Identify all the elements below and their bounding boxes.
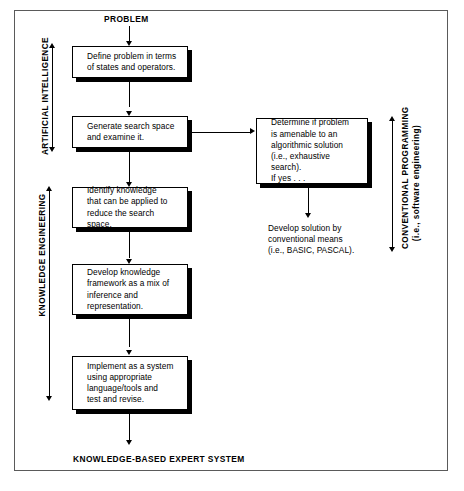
diagram-bottom-title: KNOWLEDGE-BASED EXPERT SYSTEM [73, 454, 245, 464]
span-label-knowledge-engineering: KNOWLEDGE ENGINEERING [38, 150, 47, 360]
process-box-determine-algorithmic[interactable]: Determine if problem is amenable to an a… [256, 118, 368, 184]
process-box-implement-system-label: Implement as a system using appropriate … [73, 361, 179, 406]
connector-box2-to-box3 [129, 152, 130, 182]
arrow-box4-to-box5 [126, 350, 132, 355]
process-box-develop-framework[interactable]: Develop knowledge framework as a mix of … [72, 264, 188, 315]
connector-determine-to-develop-solution [308, 188, 309, 213]
ai-span-line [52, 47, 53, 148]
connector-box4-to-box5 [129, 319, 130, 347]
diagram-canvas: PROBLEM Define problem in terms of state… [0, 0, 464, 491]
process-box-generate-search-space-label: Generate search space and examine it. [73, 121, 180, 143]
connector-problem-to-box1 [129, 26, 130, 42]
span-label-conventional-programming-line2: (i.e., software engineering) [412, 117, 422, 249]
process-box-define-problem-label: Define problem in terms of states and op… [73, 51, 182, 73]
caption-develop-conventional-solution: Develop solution by conventional means (… [268, 223, 388, 257]
process-box-determine-algorithmic-label: Determine if problem is amenable to an a… [257, 117, 367, 184]
process-box-identify-knowledge-label: Identify knowledge that can be applied t… [73, 185, 187, 230]
arrow-box2-to-determine [250, 128, 255, 134]
process-box-generate-search-space[interactable]: Generate search space and examine it. [72, 116, 188, 148]
arrow-cp-span-bottom [389, 247, 395, 252]
connector-box1-to-box2 [129, 82, 130, 107]
ke-span-line [49, 190, 50, 397]
connector-box5-to-output [129, 414, 130, 440]
process-box-implement-system[interactable]: Implement as a system using appropriate … [72, 356, 188, 410]
span-label-artificial-intelligence: ARTIFICIAL INTELLIGENCE [41, 45, 50, 155]
arrow-box5-to-output [126, 440, 132, 445]
process-box-define-problem[interactable]: Define problem in terms of states and op… [72, 46, 188, 78]
connector-box2-to-determine [188, 132, 251, 133]
arrow-ke-span-bottom [46, 396, 52, 401]
process-box-identify-knowledge[interactable]: Identify knowledge that can be applied t… [72, 187, 188, 228]
cp-span-line [392, 120, 393, 248]
span-label-conventional-programming-line1: CONVENTIONAL PROGRAMMING [401, 117, 411, 249]
process-box-develop-framework-label: Develop knowledge framework as a mix of … [73, 267, 175, 312]
connector-box3-to-box4 [129, 232, 130, 258]
arrow-determine-to-develop-solution [305, 213, 311, 218]
diagram-top-title: PROBLEM [104, 14, 149, 24]
